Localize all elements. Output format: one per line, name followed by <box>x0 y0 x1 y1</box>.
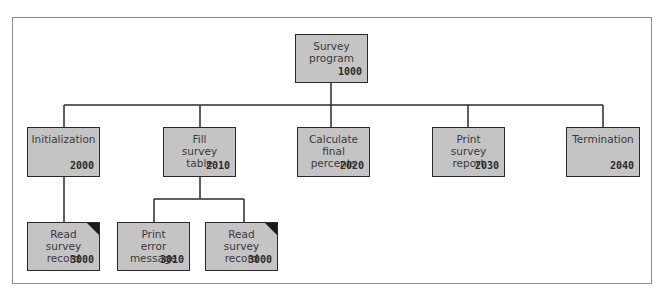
module-label: Initialization <box>28 133 99 145</box>
shared-module-corner-icon <box>265 223 277 235</box>
module-code: 3000 <box>248 254 272 266</box>
module-label: Survey program <box>296 40 367 64</box>
shared-module-corner-icon <box>87 223 99 235</box>
module-code: 2000 <box>70 160 94 172</box>
module-code: 3000 <box>70 254 94 266</box>
module-box-2000: Initialization2000 <box>27 127 100 177</box>
module-code: 3010 <box>160 254 184 266</box>
module-box-2040: Termination2040 <box>566 127 640 177</box>
module-box-root: Survey program1000 <box>295 34 368 83</box>
module-label: Termination <box>567 133 639 145</box>
module-code: 2010 <box>206 160 230 172</box>
module-code: 2030 <box>475 160 499 172</box>
module-box-2020: Calculate final percents2020 <box>297 127 370 177</box>
module-code: 2040 <box>610 160 634 172</box>
module-box-3010: Print error message3010 <box>117 222 190 271</box>
module-box-3000: Read survey record3000 <box>205 222 278 271</box>
module-box-2010: Fill survey table2010 <box>163 127 236 177</box>
module-box-2030: Print survey report2030 <box>432 127 505 177</box>
module-code: 1000 <box>338 66 362 78</box>
module-code: 2020 <box>340 160 364 172</box>
module-box-3000: Read survey record3000 <box>27 222 100 271</box>
